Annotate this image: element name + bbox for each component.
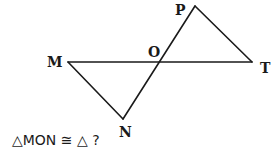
vertex-label-p: P: [175, 2, 186, 18]
segment-mn: [68, 62, 123, 119]
vertex-label-o: O: [148, 44, 160, 60]
vertex-label-n: N: [119, 124, 132, 140]
vertex-label-m: M: [47, 54, 63, 70]
congruence-question: △MON ≅ △ ?: [12, 132, 100, 148]
vertex-label-t: T: [260, 60, 271, 76]
segment-pt: [195, 6, 252, 62]
